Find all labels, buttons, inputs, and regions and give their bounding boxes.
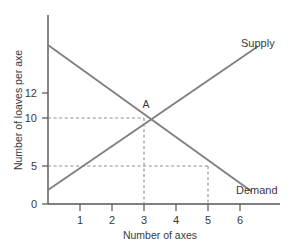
demand-series-label: Demand bbox=[236, 184, 278, 196]
x-tick-label-3: 3 bbox=[141, 214, 147, 226]
x-axis-title: Number of axes bbox=[123, 229, 197, 241]
x-tick-label-1: 1 bbox=[77, 214, 83, 226]
y-axis-title: Number of loaves per axe bbox=[12, 50, 24, 170]
y-tick-label-5: 5 bbox=[31, 160, 37, 172]
x-tick-label-4: 4 bbox=[173, 214, 179, 226]
equilibrium-point-label: A bbox=[142, 98, 149, 110]
supply-demand-chart: 0 5 10 12 1 2 3 4 5 6 Number of axes Num… bbox=[0, 0, 292, 242]
supply-series-label: Supply bbox=[241, 37, 275, 49]
y-tick-label-12: 12 bbox=[25, 87, 37, 99]
chart-canvas: 0 5 10 12 1 2 3 4 5 6 Number of axes Num… bbox=[0, 0, 292, 242]
x-tick-label-6: 6 bbox=[237, 214, 243, 226]
y-tick-label-10: 10 bbox=[25, 112, 37, 124]
x-tick-label-5: 5 bbox=[205, 214, 211, 226]
y-tick-label-0: 0 bbox=[31, 198, 37, 210]
x-tick-label-2: 2 bbox=[109, 214, 115, 226]
